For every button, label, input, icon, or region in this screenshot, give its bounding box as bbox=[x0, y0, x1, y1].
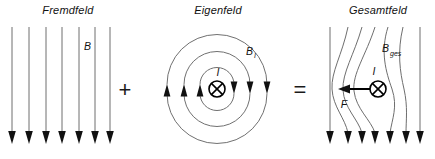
field-line-curved bbox=[400, 27, 407, 133]
arrow-head-down bbox=[8, 131, 16, 144]
arrow-head-up bbox=[181, 84, 188, 97]
plus-operator: + bbox=[119, 77, 132, 102]
arrow-head-down bbox=[264, 82, 271, 95]
conductor-into-page-symbol bbox=[209, 81, 225, 97]
arrow-head-down bbox=[416, 131, 424, 144]
current-label-i: I bbox=[217, 66, 220, 78]
panel-title-fremdfeld: Fremdfeld bbox=[42, 4, 94, 16]
fremdfeld-arrowheads bbox=[8, 131, 114, 144]
field-label-b-sub-ges: B ges bbox=[382, 42, 402, 58]
panel-eigenfeld: Eigenfeld bbox=[164, 4, 271, 143]
field-label-b: B bbox=[246, 45, 253, 57]
arrow-head-down bbox=[247, 82, 254, 95]
panel-title-eigenfeld: Eigenfeld bbox=[194, 4, 242, 16]
current-label-i: I bbox=[373, 65, 376, 77]
field-label-b-subscript: ges bbox=[390, 50, 402, 58]
arrow-head-down bbox=[326, 131, 334, 144]
force-label-f: F bbox=[341, 98, 348, 110]
arrow-head-down bbox=[106, 131, 114, 144]
field-label-b-subscript: I bbox=[254, 52, 256, 59]
arrow-head-down bbox=[42, 131, 50, 144]
fremdfeld-field-lines bbox=[12, 27, 110, 133]
arrow-head-down bbox=[231, 82, 238, 95]
arrow-head-down bbox=[371, 131, 379, 144]
panel-fremdfeld: Fremdfeld B bbox=[8, 4, 114, 144]
equals-operator: = bbox=[294, 77, 307, 102]
arrow-head-down bbox=[91, 131, 99, 144]
arrow-head-down bbox=[402, 131, 410, 144]
arrow-head-down bbox=[386, 131, 394, 144]
arrow-head-down bbox=[358, 131, 366, 144]
arrow-head-left bbox=[338, 85, 350, 94]
arrow-head-up bbox=[197, 84, 204, 97]
arrow-head-down bbox=[75, 131, 83, 144]
field-label-b: B bbox=[84, 40, 91, 52]
figure-canvas: Fremdfeld B + bbox=[0, 0, 435, 159]
field-label-b: B bbox=[382, 42, 389, 54]
field-circle-outer-bottom bbox=[167, 94, 267, 144]
field-line-curved bbox=[343, 27, 362, 133]
gesamtfeld-field-lines bbox=[330, 27, 420, 133]
conductor-into-page-symbol bbox=[370, 81, 386, 97]
panel-gesamtfeld: Gesamtfeld bbox=[326, 4, 424, 144]
arrow-head-down bbox=[25, 131, 33, 144]
arrow-head-down bbox=[344, 131, 352, 144]
panel-title-gesamtfeld: Gesamtfeld bbox=[349, 4, 408, 16]
field-line-curved bbox=[332, 27, 348, 133]
arrow-head-up bbox=[164, 84, 171, 97]
field-label-b-sub-i: B I bbox=[246, 45, 256, 59]
arrow-head-down bbox=[58, 131, 66, 144]
physics-field-superposition-figure: Fremdfeld B + bbox=[0, 0, 435, 159]
gesamtfeld-arrowheads bbox=[326, 131, 424, 144]
